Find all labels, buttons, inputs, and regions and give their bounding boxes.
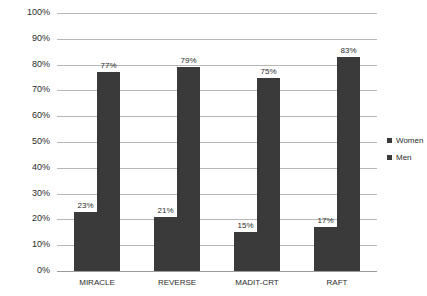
y-axis-tick-label: 60%	[0, 111, 50, 120]
bar	[314, 227, 337, 271]
bar-value-label: 75%	[249, 67, 288, 76]
bar-value-label: 79%	[169, 56, 208, 65]
legend-item[interactable]: Women	[387, 136, 423, 145]
bar	[154, 217, 177, 271]
y-axis-tick-label: 30%	[0, 189, 50, 198]
legend-swatch-icon	[387, 138, 392, 143]
gridline	[57, 13, 377, 14]
chart-legend: WomenMen	[387, 136, 423, 170]
y-axis-tick-label: 100%	[0, 8, 50, 17]
x-axis-tick-label: MIRACLE	[57, 278, 137, 287]
gridline	[57, 39, 377, 40]
bar-chart: 23%77%21%79%15%75%17%83% 100%90%80%70%60…	[0, 0, 427, 296]
legend-label: Men	[396, 153, 412, 162]
y-axis-tick-label: 40%	[0, 163, 50, 172]
bar	[177, 67, 200, 271]
bar	[74, 212, 97, 271]
y-axis-tick-label: 0%	[0, 266, 50, 275]
x-axis-tick-label: REVERSE	[137, 278, 217, 287]
bar	[257, 78, 280, 272]
bar-value-label: 83%	[329, 46, 368, 55]
bar	[234, 232, 257, 271]
y-axis-tick-label: 90%	[0, 34, 50, 43]
bar-value-label: 77%	[89, 61, 128, 70]
y-axis-tick-label: 80%	[0, 60, 50, 69]
bar	[97, 72, 120, 271]
y-axis-tick-label: 20%	[0, 214, 50, 223]
plot-area: 23%77%21%79%15%75%17%83%	[57, 13, 377, 271]
x-axis-tick-label: RAFT	[297, 278, 377, 287]
y-axis-tick-label: 10%	[0, 240, 50, 249]
legend-item[interactable]: Men	[387, 153, 423, 162]
y-axis-tick-label: 70%	[0, 85, 50, 94]
gridline	[57, 271, 377, 272]
legend-swatch-icon	[387, 155, 392, 160]
x-axis-tick-label: MADIT-CRT	[217, 278, 297, 287]
y-axis-tick-label: 50%	[0, 137, 50, 146]
bar	[337, 57, 360, 271]
legend-label: Women	[396, 136, 423, 145]
